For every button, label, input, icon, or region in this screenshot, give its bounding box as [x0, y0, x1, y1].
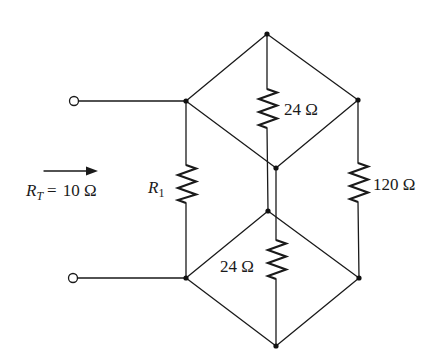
resistor-lower-24: [268, 168, 286, 346]
total-resistance-label: RT=10 Ω: [25, 181, 97, 203]
resistor-upper-24: [259, 34, 277, 211]
upper-24-ohm-label: 24 Ω: [284, 100, 318, 119]
upper-diamond: [186, 34, 358, 168]
resistor-right-120: [350, 100, 368, 278]
resistor-r1: [178, 101, 196, 278]
right-120-ohm-label: 120 Ω: [373, 175, 415, 194]
junction-nodes: [183, 31, 361, 348]
lower-24-ohm-label: 24 Ω: [220, 257, 254, 276]
input-direction-arrow: [44, 167, 98, 176]
bottom-terminal: [69, 274, 78, 283]
circuit-diagram: RT=10 Ω R1 24 Ω 120 Ω 24 Ω: [0, 0, 444, 359]
r1-label: R1: [147, 178, 164, 200]
top-terminal: [70, 97, 79, 106]
